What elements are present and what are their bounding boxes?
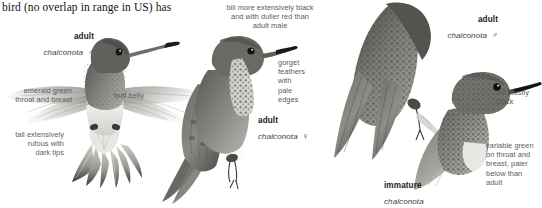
taxon-sex-symbol: ♂ xyxy=(492,30,498,40)
taxon-label-immature: immature chalconota xyxy=(384,181,474,208)
taxon-sex-symbol: ♀ xyxy=(302,131,308,141)
taxon-sci-row: chalconota ♂ xyxy=(420,24,498,42)
annotation-tail-rufous: tail extensively rufous with dark tips xyxy=(2,130,64,158)
taxon-age: adult xyxy=(18,32,94,41)
taxon-sci-row: chalconota ♂ xyxy=(18,41,94,59)
taxon-label-adult-male-back: adult chalconota ♂ xyxy=(420,15,498,42)
taxon-scientific-name: chalconota xyxy=(258,132,298,141)
taxon-age: immature xyxy=(384,181,474,190)
annotation-bill-black-duller: bill more extensively black and with dul… xyxy=(212,3,328,31)
annotation-gorget-edges: gorget feathers with pale edges xyxy=(278,58,328,104)
running-body-text: bird (no overlap in range in US) has xyxy=(2,1,171,13)
annotation-bill-mostly-black: bill mostly black xyxy=(496,88,542,106)
eye-icon xyxy=(247,47,254,54)
taxon-scientific-name: chalconota xyxy=(43,48,83,57)
taxon-scientific-name: chalconota xyxy=(447,31,487,40)
taxon-age: adult xyxy=(420,15,498,24)
bill-icon xyxy=(262,46,298,59)
taxon-sci-row: chalconota xyxy=(384,190,474,208)
taxon-scientific-name: chalconota xyxy=(384,197,424,206)
annotation-emerald-green: emerald green throat and breast xyxy=(6,86,72,104)
feet-icon xyxy=(229,158,239,189)
taxon-label-adult-male-hovering: adult chalconota ♂ xyxy=(18,32,94,59)
taxon-sex-symbol: ♂ xyxy=(88,47,94,57)
annotation-variable-green: variable green on throat and breast, pal… xyxy=(486,141,542,187)
eye-icon xyxy=(116,49,123,56)
